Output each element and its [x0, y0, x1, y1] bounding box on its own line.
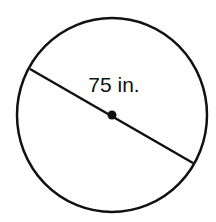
diameter-label: 75 in.	[88, 73, 139, 96]
center-point	[108, 111, 117, 120]
circle-diagram: 75 in.	[0, 0, 216, 222]
